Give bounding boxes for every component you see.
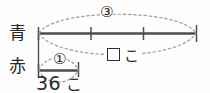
known-quantity-unit: こ bbox=[66, 71, 82, 93]
known-quantity-value: 36 bbox=[36, 72, 61, 93]
row-label-blue: 青 bbox=[9, 25, 26, 42]
blue-span-arc-upper bbox=[39, 14, 196, 33]
known-quantity-label: 36 こ bbox=[36, 71, 82, 93]
unknown-unit-label: こ bbox=[124, 44, 139, 65]
unknown-quantity-label: こ bbox=[105, 44, 141, 65]
multiplier-blue: ③ bbox=[100, 5, 113, 20]
unknown-box-icon bbox=[107, 48, 120, 61]
tape-diagram-figure: 青 赤 ③ ① こ 36 こ bbox=[0, 0, 210, 93]
multiplier-red: ① bbox=[53, 52, 66, 67]
row-label-red: 赤 bbox=[9, 58, 26, 75]
